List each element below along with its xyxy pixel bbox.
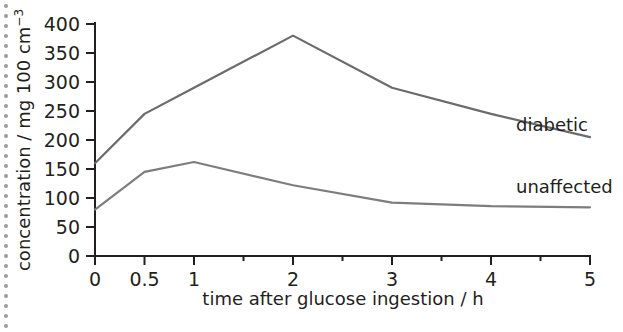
x-axis-tick-label: 5 [584, 268, 596, 290]
y-axis-title-main: concentration / mg 100 cm [13, 27, 34, 271]
y-axis-tick-labels: 050100150200250300350400 [44, 13, 80, 267]
x-axis-tick-label: 4 [485, 268, 497, 290]
x-axis-tick-label: 2 [287, 268, 299, 290]
x-axis-tick-label: 1 [188, 268, 200, 290]
series-line-diabetic [95, 36, 590, 164]
x-axis-tick-labels: 00.512345 [89, 268, 596, 290]
y-axis-tick-label: 50 [56, 216, 80, 238]
y-axis-tick-label: 350 [44, 42, 80, 64]
y-axis-tick-label: 300 [44, 71, 80, 93]
y-axis-tick-label: 100 [44, 187, 80, 209]
y-axis-tick-label: 0 [68, 245, 80, 267]
y-axis-title: concentration / mg 100 cm−3 [12, 9, 34, 271]
line-chart: 050100150200250300350400 00.512345 diabe… [0, 0, 623, 332]
series-label-diabetic: diabetic [516, 114, 588, 135]
y-axis-tick-label: 200 [44, 129, 80, 151]
x-axis-tick-label: 0.5 [129, 268, 159, 290]
y-axis-ticks [86, 24, 95, 256]
y-axis-title-exponent: −3 [12, 9, 26, 27]
x-axis-tick-label: 3 [386, 268, 398, 290]
y-axis-tick-label: 400 [44, 13, 80, 35]
x-axis-title: time after glucose ingestion / h [202, 288, 483, 309]
series-label-unaffected: unaffected [516, 176, 613, 197]
chart-page: 050100150200250300350400 00.512345 diabe… [0, 0, 623, 332]
x-axis-tick-label: 0 [89, 268, 101, 290]
y-axis-tick-label: 250 [44, 100, 80, 122]
series-labels: diabeticunaffected [516, 114, 613, 197]
axes [93, 22, 591, 257]
y-axis-tick-label: 150 [44, 158, 80, 180]
